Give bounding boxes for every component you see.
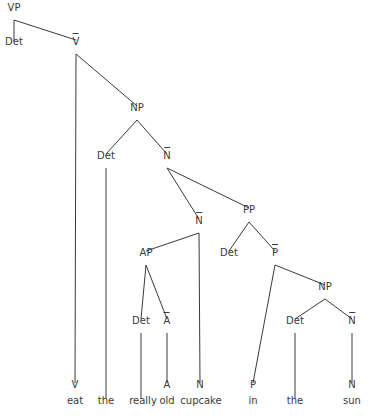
tree-node-abar: A xyxy=(164,315,171,327)
tree-edge xyxy=(146,233,199,251)
tree-edge xyxy=(253,265,275,383)
tree-node-n2: N xyxy=(348,379,355,391)
word-leaf: in xyxy=(248,395,257,407)
tree-edge xyxy=(106,120,137,154)
word-leaf: the xyxy=(98,395,114,407)
tree-edge xyxy=(141,265,146,319)
word-leaf: eat xyxy=(67,395,83,407)
tree-node-det4: Det xyxy=(286,315,304,327)
word-leaf: really xyxy=(129,395,157,407)
tree-node-p: P xyxy=(250,379,256,391)
tree-node-pp: PP xyxy=(243,204,255,216)
tree-node-det1: Det xyxy=(97,150,115,162)
word-leaf: old xyxy=(159,395,174,407)
word-leaf: cupcake xyxy=(180,395,221,407)
tree-edge xyxy=(76,54,137,106)
tree-node-a: A xyxy=(164,379,171,391)
tree-node-vp: VP xyxy=(8,2,21,14)
tree-node-nbar2: N xyxy=(195,215,202,227)
tree-edge xyxy=(14,20,76,40)
tree-node-det3: Det xyxy=(220,247,238,259)
tree-edge xyxy=(199,233,200,383)
word-leaf: sun xyxy=(343,395,361,407)
bar-level-marker xyxy=(73,33,79,34)
bar-level-marker xyxy=(349,312,355,313)
tree-node-n1: N xyxy=(196,379,203,391)
tree-node-det2: Det xyxy=(132,315,150,327)
bar-level-marker xyxy=(196,212,202,213)
tree-node-ap: AP xyxy=(140,247,153,259)
tree-edge xyxy=(75,54,76,383)
tree-node-np1: NP xyxy=(130,102,144,114)
word-leaf: the xyxy=(287,395,303,407)
tree-node-np2: NP xyxy=(318,281,332,293)
tree-edges xyxy=(0,0,370,419)
bar-level-marker xyxy=(164,147,170,148)
tree-edge xyxy=(146,265,167,319)
bar-level-marker xyxy=(272,244,278,245)
tree-node-nbar1: N xyxy=(163,150,170,162)
tree-node-det0: Det xyxy=(5,36,23,48)
tree-node-v: V xyxy=(72,379,79,391)
tree-node-vbar: V xyxy=(73,36,80,48)
tree-node-pbar: P xyxy=(272,247,278,259)
bar-level-marker xyxy=(164,312,170,313)
tree-edge xyxy=(137,120,167,154)
tree-node-nbar3: N xyxy=(348,315,355,327)
